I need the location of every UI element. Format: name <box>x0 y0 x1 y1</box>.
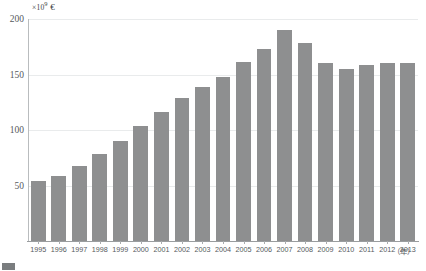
bar-slot[interactable]: 1995 <box>28 19 49 241</box>
bar-slot[interactable]: 2008 <box>295 19 316 241</box>
x-axis-tick-label: 2002 <box>174 245 190 254</box>
bar[interactable] <box>133 126 148 241</box>
bar-slot[interactable]: 1999 <box>110 19 131 241</box>
bar-slot[interactable]: 2001 <box>151 19 172 241</box>
x-axis-tick-mark <box>408 241 409 244</box>
x-axis-tick-label: 2001 <box>153 245 169 254</box>
bar[interactable] <box>236 62 251 241</box>
x-axis-tick-label: 2007 <box>277 245 293 254</box>
x-axis-tick-mark <box>161 241 162 244</box>
x-axis-tick-mark <box>367 241 368 244</box>
bar-slot[interactable]: 2004 <box>213 19 234 241</box>
bar[interactable] <box>72 166 87 241</box>
bar[interactable] <box>339 69 354 241</box>
bar-slot[interactable]: 2013 <box>397 19 418 241</box>
bar-slot[interactable]: 2005 <box>233 19 254 241</box>
x-axis-tick-label: 2011 <box>359 245 374 254</box>
bar-slot[interactable]: 1998 <box>90 19 111 241</box>
x-axis-unit-label: （年） <box>393 245 414 256</box>
x-axis-tick-mark <box>182 241 183 244</box>
x-axis-tick-label: 2000 <box>133 245 149 254</box>
caption-strip <box>0 262 426 271</box>
unit-multiplier: ×10 <box>32 3 44 12</box>
x-axis-tick-label: 2009 <box>318 245 334 254</box>
bar-slot[interactable]: 2010 <box>336 19 357 241</box>
x-axis-tick-label: 2010 <box>338 245 354 254</box>
plot-area: 50100150200 1995199619971998199920002001… <box>28 19 418 241</box>
bar-slot[interactable]: 2012 <box>377 19 398 241</box>
unit-currency: € <box>50 2 55 12</box>
x-axis-tick-mark <box>223 241 224 244</box>
bar-series: 1995199619971998199920002001200220032004… <box>28 19 418 241</box>
y-axis-tick-label: 150 <box>10 70 24 80</box>
x-axis-tick-mark <box>79 241 80 244</box>
x-axis-tick-mark <box>285 241 286 244</box>
bar[interactable] <box>318 63 333 241</box>
x-axis-tick-label: 1999 <box>112 245 128 254</box>
x-axis-tick-label: 1997 <box>71 245 87 254</box>
bar-slot[interactable]: 2002 <box>172 19 193 241</box>
bar[interactable] <box>31 181 46 241</box>
x-axis-tick-label: 2003 <box>194 245 210 254</box>
bar[interactable] <box>195 87 210 241</box>
bar[interactable] <box>277 30 292 241</box>
caption-swatch <box>2 263 15 270</box>
y-axis-tick-label: 200 <box>10 14 24 24</box>
y-axis-tick-label: 50 <box>15 181 25 191</box>
bar[interactable] <box>400 63 415 241</box>
x-axis-tick-label: 2004 <box>215 245 231 254</box>
x-axis-tick-mark <box>120 241 121 244</box>
x-axis-tick-mark <box>264 241 265 244</box>
x-axis-tick-label: 2006 <box>256 245 272 254</box>
x-axis-tick-label: 2008 <box>297 245 313 254</box>
x-axis-tick-mark <box>100 241 101 244</box>
x-axis-tick-mark <box>244 241 245 244</box>
x-axis-tick-label: 1998 <box>92 245 108 254</box>
x-axis-tick-mark <box>202 241 203 244</box>
bar-slot[interactable]: 2007 <box>274 19 295 241</box>
x-axis-tick-mark <box>387 241 388 244</box>
x-axis-tick-mark <box>59 241 60 244</box>
unit-exponent: 9 <box>44 0 47 7</box>
x-axis-tick-mark <box>38 241 39 244</box>
y-axis-unit-label: ×109 € <box>32 2 55 12</box>
bar[interactable] <box>257 49 272 241</box>
bar-slot[interactable]: 1996 <box>49 19 70 241</box>
bar-slot[interactable]: 1997 <box>69 19 90 241</box>
x-axis-tick-mark <box>305 241 306 244</box>
bar[interactable] <box>359 65 374 241</box>
bar[interactable] <box>154 112 169 241</box>
y-axis-tick-label: 100 <box>10 125 24 135</box>
x-axis-tick-mark <box>346 241 347 244</box>
bar-chart-figure: ×109 € 50100150200 199519961997199819992… <box>0 0 426 271</box>
bar[interactable] <box>51 176 66 241</box>
bar[interactable] <box>113 141 128 241</box>
bar-slot[interactable]: 2000 <box>131 19 152 241</box>
bar[interactable] <box>92 154 107 241</box>
bar[interactable] <box>298 43 313 241</box>
x-axis-tick-mark <box>326 241 327 244</box>
bar[interactable] <box>380 63 395 241</box>
x-axis-tick-label: 1996 <box>51 245 67 254</box>
x-axis-tick-label: 1995 <box>30 245 46 254</box>
bar[interactable] <box>216 77 231 241</box>
x-axis-tick-mark <box>141 241 142 244</box>
bar-slot[interactable]: 2009 <box>315 19 336 241</box>
bar-slot[interactable]: 2006 <box>254 19 275 241</box>
bar-slot[interactable]: 2011 <box>356 19 377 241</box>
bar[interactable] <box>175 98 190 241</box>
x-axis-tick-label: 2005 <box>236 245 252 254</box>
bar-slot[interactable]: 2003 <box>192 19 213 241</box>
